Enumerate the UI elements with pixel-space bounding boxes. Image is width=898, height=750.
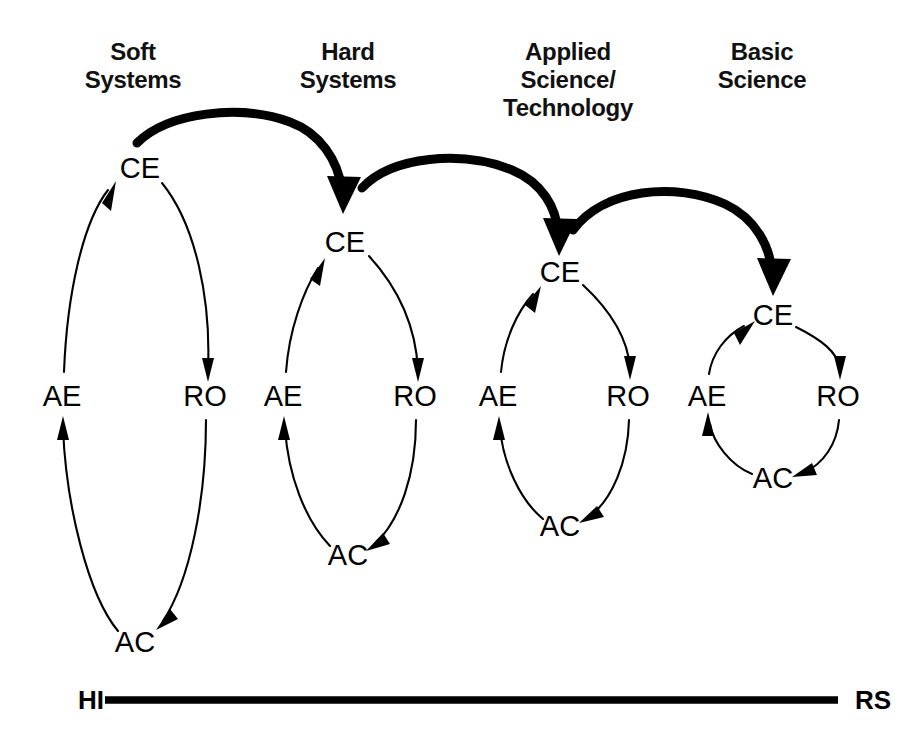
cycle-soft-systems: CE RO AC AE [43, 152, 227, 658]
heading-line-2: Science [718, 66, 807, 93]
column-headings: Soft Systems Hard Systems Applied Scienc… [85, 38, 807, 121]
heading-line-3: Technology [503, 94, 634, 121]
heading-line-2: Systems [85, 66, 182, 93]
node-ro: RO [816, 380, 860, 412]
axis-label-left: HI [78, 685, 104, 715]
connector-applied-to-basic [573, 191, 791, 296]
node-ce: CE [753, 299, 793, 331]
heading-line-2: Systems [300, 66, 397, 93]
arrowhead-ae [57, 416, 69, 440]
cycle-hard-systems: CE RO AC AE [264, 226, 437, 571]
connector-soft-to-hard [137, 113, 361, 214]
arrowhead-ae [278, 416, 290, 440]
arc-ro-to-ac [375, 420, 416, 544]
arc-ac-to-ae [285, 428, 330, 546]
arc-ac-to-ae [63, 428, 118, 631]
node-ro: RO [606, 380, 650, 412]
node-ac: AC [540, 510, 580, 542]
node-ac: AC [115, 626, 155, 658]
connector-arrowhead [327, 176, 361, 214]
heading-soft-systems: Soft Systems [85, 38, 182, 93]
heading-line-2: Science/ [521, 66, 617, 93]
node-ac: AC [753, 462, 793, 494]
heading-hard-systems: Hard Systems [300, 38, 397, 93]
arc-ce-to-ro [583, 285, 630, 368]
node-ro: RO [183, 380, 227, 412]
arrowhead-ac [792, 463, 817, 477]
arc-ae-to-ce [286, 268, 318, 372]
arc-ce-to-ro [796, 327, 840, 368]
arc-ce-to-ro [369, 256, 418, 370]
axis-label-right: RS [855, 685, 891, 715]
bottom-axis: HI RS [78, 685, 891, 715]
arrowhead-ae [702, 412, 714, 436]
heading-applied-science-technology: Applied Science/ Technology [503, 38, 634, 121]
node-ae: AE [43, 380, 82, 412]
arrowhead-ce [310, 258, 325, 286]
heading-basic-science: Basic Science [718, 38, 807, 93]
arrowhead-ro [834, 356, 846, 380]
arrowhead-ac [156, 609, 178, 630]
heading-line-1: Hard [321, 38, 374, 65]
arc-ae-to-ce [64, 190, 108, 372]
arc-ac-to-ae [710, 424, 752, 474]
node-ae: AE [479, 380, 518, 412]
node-ae: AE [688, 380, 727, 412]
arrowhead-ro [624, 356, 636, 380]
connector-arrowhead [543, 218, 577, 256]
node-ce: CE [540, 256, 580, 288]
heading-line-1: Basic [731, 38, 794, 65]
stage-connectors [137, 113, 791, 296]
connector-arc [573, 191, 772, 272]
arc-ro-to-ac [163, 420, 206, 621]
arc-ac-to-ae [500, 428, 543, 519]
node-ce: CE [325, 226, 365, 258]
arrowhead-ro [202, 358, 214, 382]
node-ro: RO [393, 380, 437, 412]
arc-ro-to-ac [589, 420, 629, 517]
cycle-applied-science-technology: CE RO AC AE [479, 256, 650, 542]
cycle-basic-science: CE RO AC AE [688, 299, 860, 494]
arc-ro-to-ac [803, 420, 839, 473]
connector-arrowhead [757, 258, 791, 296]
arrowhead-ro [412, 358, 424, 382]
learning-cycle-diagram: Soft Systems Hard Systems Applied Scienc… [0, 0, 898, 750]
arrowhead-ce [734, 321, 755, 345]
diagram-canvas: Soft Systems Hard Systems Applied Scienc… [0, 0, 898, 750]
connector-arc [137, 113, 342, 190]
node-ae: AE [264, 380, 303, 412]
node-ce: CE [120, 152, 160, 184]
connector-arc [362, 158, 558, 232]
arrowhead-ac [366, 533, 390, 551]
heading-line-1: Applied [525, 38, 611, 65]
heading-line-1: Soft [110, 38, 156, 65]
arc-ce-to-ro [162, 183, 208, 370]
arrowhead-ae [493, 416, 505, 440]
arrowhead-ac [579, 506, 604, 523]
node-ac: AC [328, 539, 368, 571]
connector-hard-to-applied [362, 158, 577, 256]
